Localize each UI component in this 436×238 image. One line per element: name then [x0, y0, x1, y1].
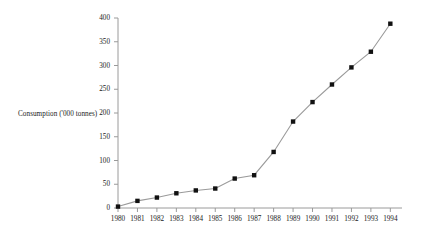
- data-point-marker: [155, 195, 159, 199]
- x-axis-tick-label: 1994: [375, 215, 405, 223]
- data-point-marker: [194, 188, 198, 192]
- data-point-marker: [213, 186, 217, 190]
- data-point-marker: [135, 199, 139, 203]
- y-axis-ticks: [114, 18, 118, 208]
- y-axis-tick-label: 100: [76, 157, 110, 165]
- y-axis-tick-label: 0: [76, 204, 110, 212]
- y-axis-tick-label: 300: [76, 62, 110, 70]
- y-axis-tick-label: 200: [76, 109, 110, 117]
- y-axis-tick-label: 400: [76, 14, 110, 22]
- data-point-marker: [388, 22, 392, 26]
- line-chart: Consumption ('000 tonnes) 05010015020025…: [0, 0, 436, 238]
- y-axis-tick-label: 50: [76, 180, 110, 188]
- data-markers: [116, 22, 393, 209]
- data-point-marker: [310, 100, 314, 104]
- data-point-marker: [174, 191, 178, 195]
- data-point-marker: [291, 119, 295, 123]
- data-line-consumption: [118, 24, 390, 207]
- y-axis-tick-label: 150: [76, 133, 110, 141]
- data-point-marker: [252, 173, 256, 177]
- plot-area: [0, 0, 436, 238]
- x-axis-ticks: [118, 208, 390, 212]
- data-point-marker: [330, 82, 334, 86]
- data-point-marker: [271, 150, 275, 154]
- data-point-marker: [233, 176, 237, 180]
- axes: [118, 18, 402, 208]
- y-axis-tick-label: 250: [76, 85, 110, 93]
- data-point-marker: [369, 50, 373, 54]
- data-point-marker: [116, 204, 120, 208]
- data-point-marker: [349, 65, 353, 69]
- y-axis-tick-label: 350: [76, 38, 110, 46]
